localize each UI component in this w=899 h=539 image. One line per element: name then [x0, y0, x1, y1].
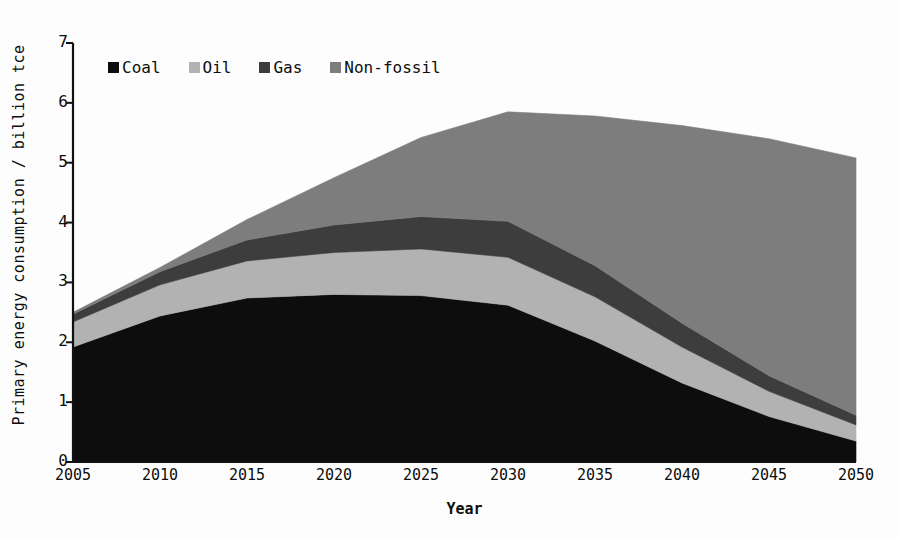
legend-swatch-gas	[259, 62, 270, 73]
legend-item-coal[interactable]: Coal	[108, 58, 161, 77]
legend-item-oil[interactable]: Oil	[189, 58, 232, 77]
x-axis-title: Year	[73, 500, 856, 518]
x-tick-label: 2025	[391, 466, 451, 484]
legend-swatch-oil	[189, 62, 200, 73]
legend-label: Coal	[122, 58, 161, 77]
x-tick-label: 2020	[304, 466, 364, 484]
plot-area	[0, 0, 899, 539]
chart-container: Primary energy consumption / billion tce…	[0, 0, 899, 539]
x-tick-label: 2045	[739, 466, 799, 484]
x-tick-label: 2030	[478, 466, 538, 484]
legend-label: Gas	[273, 58, 302, 77]
legend-item-gas[interactable]: Gas	[259, 58, 302, 77]
legend-label: Non-fossil	[344, 58, 440, 77]
chart-legend: CoalOilGasNon-fossil	[108, 58, 441, 77]
x-tick-label: 2040	[652, 466, 712, 484]
x-tick-label: 2010	[130, 466, 190, 484]
x-tick-label: 2050	[826, 466, 886, 484]
legend-swatch-non-fossil	[330, 62, 341, 73]
legend-item-non-fossil[interactable]: Non-fossil	[330, 58, 440, 77]
x-tick-label: 2035	[565, 466, 625, 484]
legend-label: Oil	[203, 58, 232, 77]
x-tick-label: 2015	[217, 466, 277, 484]
x-tick-label: 2005	[43, 466, 103, 484]
legend-swatch-coal	[108, 62, 119, 73]
